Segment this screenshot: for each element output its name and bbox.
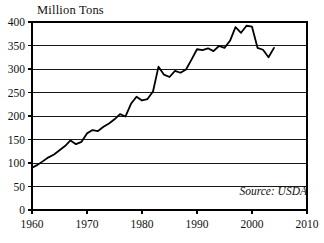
y-axis-tick-label: 250 <box>0 87 25 99</box>
x-axis-tick-label: 1960 <box>12 218 52 230</box>
y-axis-tick-label: 400 <box>0 16 25 28</box>
x-axis-tick-label: 2010 <box>287 218 324 230</box>
y-axis-tick-label: 100 <box>0 157 25 169</box>
data-series-line <box>32 26 274 168</box>
y-axis-tick-label: 200 <box>0 110 25 122</box>
x-axis-tick-label: 1980 <box>122 218 162 230</box>
chart-plot-area <box>0 0 324 243</box>
y-axis-tick-label: 0 <box>0 204 25 216</box>
source-annotation: Source: USDA <box>239 185 307 197</box>
x-axis-tick-label: 1970 <box>67 218 107 230</box>
y-axis-tick-label: 150 <box>0 134 25 146</box>
x-axis-tick-label: 1990 <box>177 218 217 230</box>
y-axis-tick-label: 350 <box>0 40 25 52</box>
chart-container: Million Tons 400350300250200150100500 19… <box>0 0 324 243</box>
y-axis-tick-label: 300 <box>0 63 25 75</box>
x-axis-tick-label: 2000 <box>232 218 272 230</box>
y-axis-tick-label: 50 <box>0 181 25 193</box>
